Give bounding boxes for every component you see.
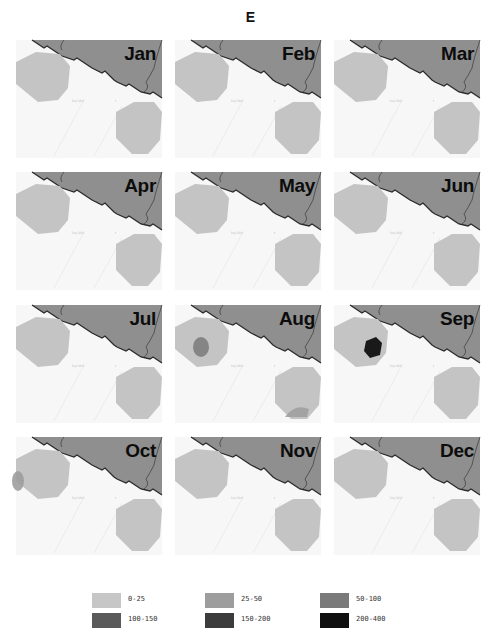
svg-text:bay label: bay label <box>390 99 402 103</box>
legend-swatch <box>320 613 349 628</box>
legend-swatch <box>205 613 234 628</box>
svg-text::: : <box>433 363 434 368</box>
month-label: Apr <box>124 175 156 197</box>
map-panel-aug: bay label : Aug <box>173 305 323 423</box>
svg-text::: : <box>115 363 116 368</box>
svg-text::: : <box>433 495 434 500</box>
month-label: Oct <box>125 440 156 462</box>
map-panel-sep: bay label : Sep <box>332 305 482 423</box>
svg-text::: : <box>274 495 275 500</box>
svg-text::: : <box>115 98 116 103</box>
legend-label: 100-150 <box>128 615 158 623</box>
legend-label: 25-50 <box>241 595 262 603</box>
svg-text:bay label: bay label <box>72 231 84 235</box>
legend-label: 50-100 <box>356 595 381 603</box>
map-panel-jul: bay label : Jul <box>14 305 164 423</box>
map-panel-jun: bay label : Jun <box>332 172 482 290</box>
hotspot <box>193 337 209 357</box>
svg-text:bay label: bay label <box>72 99 84 103</box>
legend-swatch <box>92 593 121 608</box>
map-panel-apr: bay label : Apr <box>14 172 164 290</box>
svg-text:bay label: bay label <box>390 231 402 235</box>
month-label: Jul <box>129 308 156 330</box>
month-label: Aug <box>279 308 315 330</box>
map-panel-jan: bay label : Jan <box>14 40 164 158</box>
svg-text:bay label: bay label <box>231 99 243 103</box>
hotspot <box>12 471 24 491</box>
legend-swatch <box>320 593 349 608</box>
month-label: Feb <box>282 43 315 65</box>
figure-panel-label: E <box>0 9 501 25</box>
month-label: Jun <box>441 175 474 197</box>
svg-text::: : <box>433 98 434 103</box>
legend-swatch <box>205 593 234 608</box>
map-panel-feb: bay label : Feb <box>173 40 323 158</box>
month-label: May <box>279 175 315 197</box>
month-label: Mar <box>441 43 474 65</box>
svg-text::: : <box>274 363 275 368</box>
legend-label: 0-25 <box>128 595 145 603</box>
svg-text:bay label: bay label <box>390 496 402 500</box>
map-panel-oct: bay label : Oct <box>14 437 164 555</box>
month-label: Jan <box>124 43 156 65</box>
map-panel-mar: bay label : Mar <box>332 40 482 158</box>
figure-caption-cutoff <box>10 638 490 644</box>
legend-swatch <box>92 613 121 628</box>
svg-text::: : <box>433 230 434 235</box>
svg-text:bay label: bay label <box>231 496 243 500</box>
svg-text::: : <box>115 230 116 235</box>
svg-text::: : <box>274 230 275 235</box>
map-panel-may: bay label : May <box>173 172 323 290</box>
map-panel-dec: bay label : Dec <box>332 437 482 555</box>
legend-label: 200-400 <box>356 615 386 623</box>
svg-text:bay label: bay label <box>231 364 243 368</box>
svg-text:bay label: bay label <box>72 496 84 500</box>
svg-text::: : <box>115 495 116 500</box>
svg-text:bay label: bay label <box>231 231 243 235</box>
svg-text:bay label: bay label <box>72 364 84 368</box>
legend-label: 150-200 <box>241 615 271 623</box>
svg-text:bay label: bay label <box>390 364 402 368</box>
map-panel-nov: bay label : Nov <box>173 437 323 555</box>
month-label: Dec <box>440 440 474 462</box>
svg-text::: : <box>274 98 275 103</box>
month-label: Sep <box>440 308 474 330</box>
month-label: Nov <box>280 440 315 462</box>
